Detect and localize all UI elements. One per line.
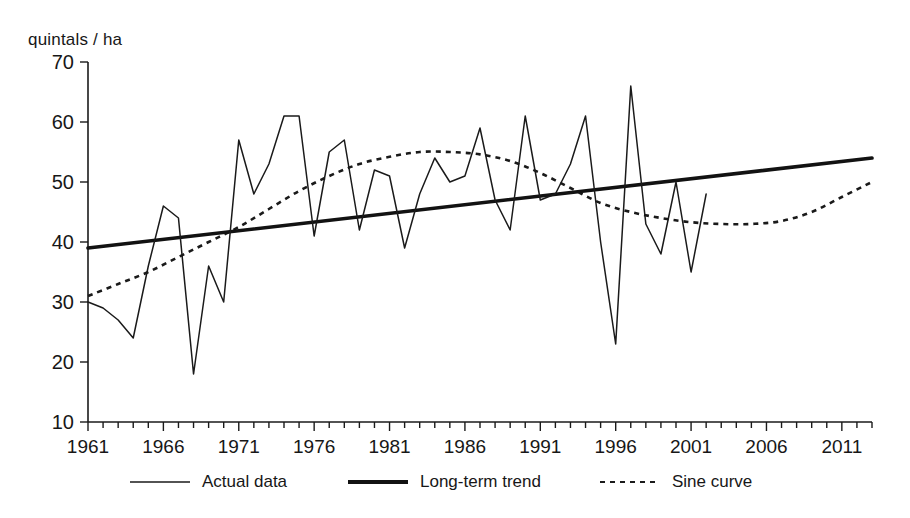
- y-tick-label: 60: [52, 111, 74, 133]
- legend-item: Actual data: [130, 472, 288, 491]
- x-tick-label: 1991: [519, 436, 561, 457]
- x-tick-label: 2011: [821, 436, 862, 457]
- chart-legend: Actual dataLong-term trendSine curve: [130, 472, 752, 491]
- chart-plot-area: 10203040506070 1961196619711976198119861…: [0, 0, 910, 518]
- x-axis-ticks: 1961196619711976198119861991199620012006…: [67, 422, 872, 457]
- y-tick-label: 70: [52, 51, 74, 73]
- x-tick-label: 1981: [368, 436, 410, 457]
- y-tick-label: 50: [52, 171, 74, 193]
- x-tick-label: 1971: [218, 436, 260, 457]
- y-tick-label: 30: [52, 291, 74, 313]
- legend-item: Sine curve: [600, 472, 752, 491]
- x-tick-label: 2001: [670, 436, 712, 457]
- y-tick-label: 10: [52, 411, 74, 433]
- x-tick-label: 1961: [67, 436, 109, 457]
- legend-item: Long-term trend: [348, 472, 541, 491]
- y-tick-label: 20: [52, 351, 74, 373]
- x-tick-label: 1976: [293, 436, 335, 457]
- x-tick-label: 1966: [142, 436, 184, 457]
- legend-item-label: Actual data: [202, 472, 288, 491]
- x-tick-label: 1996: [595, 436, 637, 457]
- x-tick-label: 2006: [745, 436, 787, 457]
- series-line-actual-data: [88, 86, 706, 374]
- legend-item-label: Sine curve: [672, 472, 752, 491]
- y-axis-ticks: 10203040506070: [52, 51, 88, 433]
- chart-figure: quintals / ha 10203040506070 19611966197…: [0, 0, 910, 518]
- x-tick-label: 1986: [444, 436, 486, 457]
- y-tick-label: 40: [52, 231, 74, 253]
- legend-item-label: Long-term trend: [420, 472, 541, 491]
- series-line-long-term-trend: [88, 158, 872, 248]
